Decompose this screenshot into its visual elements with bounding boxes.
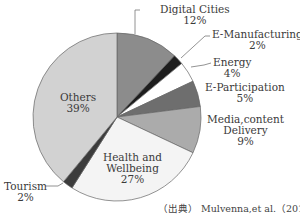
label-pct: 12%: [160, 15, 230, 26]
leader-tourism: [45, 183, 63, 186]
label-pct: 27%: [103, 174, 162, 185]
label-e-manufacturing: E-Manufacturing 2%: [212, 29, 300, 51]
label-pct: 4%: [213, 68, 251, 79]
label-e-participation: E-Participation 5%: [205, 82, 285, 104]
source-citation: （出典） Mulvenna,et al.（2011）: [158, 201, 300, 215]
label-pct: 9%: [207, 136, 284, 147]
label-others: Others 39%: [60, 92, 96, 114]
label-pct: 5%: [205, 93, 285, 104]
leader-energy: [191, 63, 211, 67]
label-tourism: Tourism 2%: [4, 181, 47, 203]
label-digital-cities: Digital Cities 12%: [160, 4, 230, 26]
label-media-content-delivery: Media,content Delivery 9%: [207, 114, 284, 147]
label-energy: Energy 4%: [213, 57, 251, 79]
label-pct: 2%: [212, 40, 300, 51]
label-health-wellbeing: Health and Wellbeing 27%: [103, 152, 162, 185]
leader-e-manufacturing: [181, 36, 210, 58]
label-pct: 2%: [4, 192, 47, 203]
leader-digital-cities: [135, 10, 140, 34]
label-pct: 39%: [60, 103, 96, 114]
